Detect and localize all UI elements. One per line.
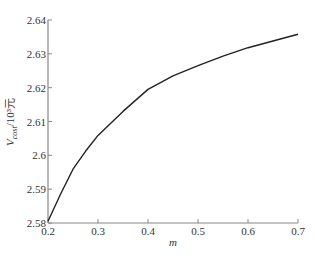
y-tick-label: 2.64 (27, 14, 47, 26)
x-tick-label: 0.2 (41, 225, 55, 237)
y-tick-label: 2.6 (32, 149, 46, 161)
y-tick-label: 2.61 (27, 116, 46, 128)
x-axis-label: m (169, 236, 177, 248)
axes (48, 20, 298, 223)
x-tick-label: 0.3 (91, 225, 105, 237)
y-label-sub: cost (10, 126, 19, 140)
x-tick-label: 0.5 (191, 225, 205, 237)
y-axis-label: Vcost/10³元 (4, 98, 19, 146)
x-tick-label: 0.7 (291, 225, 305, 237)
line-chart: 2.582.592.62.612.622.632.640.20.30.40.50… (0, 0, 315, 258)
data-series (48, 34, 298, 221)
y-tick-label: 2.63 (27, 48, 47, 60)
x-tick-label: 0.6 (241, 225, 255, 237)
tick-marks: 2.582.592.62.612.622.632.640.20.30.40.50… (27, 14, 306, 237)
x-tick-label: 0.4 (141, 225, 155, 237)
series-line (48, 34, 298, 221)
y-label-rest: /10³元 (4, 98, 16, 126)
y-tick-label: 2.59 (27, 183, 47, 195)
y-tick-label: 2.62 (27, 82, 46, 94)
